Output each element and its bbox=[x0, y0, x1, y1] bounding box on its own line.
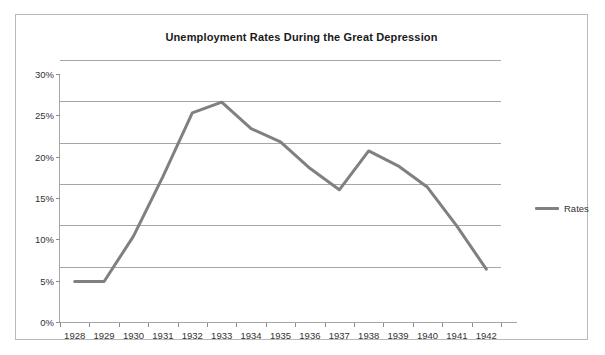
y-tick-label-0: 0% bbox=[40, 317, 54, 328]
x-tick-mark-1941 bbox=[442, 323, 443, 327]
x-tick-label-1937: 1937 bbox=[329, 330, 350, 341]
x-tick-mark-1931 bbox=[148, 323, 149, 327]
x-tick-label-1929: 1929 bbox=[94, 330, 115, 341]
series-line-rates bbox=[60, 60, 501, 308]
x-axis-tick-labels: 1928192919301931193219331934193519361937… bbox=[60, 330, 501, 344]
y-tick-label-10: 10% bbox=[35, 234, 54, 245]
x-tick-mark-1929 bbox=[89, 323, 90, 327]
x-tick-label-1935: 1935 bbox=[270, 330, 291, 341]
y-tick-label-15: 15% bbox=[35, 193, 54, 204]
x-tick-label-1941: 1941 bbox=[446, 330, 467, 341]
x-tick-label-1928: 1928 bbox=[64, 330, 85, 341]
x-tick-mark-end bbox=[501, 323, 502, 327]
x-tick-mark-1939 bbox=[383, 323, 384, 327]
x-tick-label-1934: 1934 bbox=[241, 330, 262, 341]
x-tick-label-1932: 1932 bbox=[182, 330, 203, 341]
x-tick-mark-1937 bbox=[325, 323, 326, 327]
x-tick-mark-1938 bbox=[354, 323, 355, 327]
chart-title: Unemployment Rates During the Great Depr… bbox=[16, 31, 587, 43]
legend-label-rates: Rates bbox=[564, 203, 589, 214]
x-tick-label-1938: 1938 bbox=[358, 330, 379, 341]
x-tick-label-1933: 1933 bbox=[211, 330, 232, 341]
x-tick-label-1940: 1940 bbox=[417, 330, 438, 341]
y-tick-label-5: 5% bbox=[40, 275, 54, 286]
x-tick-label-1939: 1939 bbox=[388, 330, 409, 341]
y-tick-label-25: 25% bbox=[35, 110, 54, 121]
chart-legend: Rates bbox=[535, 203, 589, 214]
x-tick-mark-1935 bbox=[266, 323, 267, 327]
x-tick-mark-1930 bbox=[119, 323, 120, 327]
x-tick-mark-1940 bbox=[413, 323, 414, 327]
x-tick-mark-1932 bbox=[178, 323, 179, 327]
y-axis-tick-labels: 0%5%10%15%20%25%30% bbox=[26, 74, 54, 323]
x-tick-label-1942: 1942 bbox=[476, 330, 497, 341]
plot-area bbox=[60, 60, 501, 308]
y-tick-label-20: 20% bbox=[35, 151, 54, 162]
x-tick-mark-1942 bbox=[472, 323, 473, 327]
x-tick-label-1930: 1930 bbox=[123, 330, 144, 341]
x-axis-tick-marks bbox=[60, 323, 501, 327]
x-tick-mark-1934 bbox=[236, 323, 237, 327]
legend-swatch-rates bbox=[535, 207, 559, 210]
x-tick-mark-1928 bbox=[60, 323, 61, 327]
y-tick-label-30: 30% bbox=[35, 69, 54, 80]
x-tick-mark-1933 bbox=[207, 323, 208, 327]
x-tick-label-1931: 1931 bbox=[152, 330, 173, 341]
x-tick-label-1936: 1936 bbox=[299, 330, 320, 341]
x-tick-mark-1936 bbox=[295, 323, 296, 327]
chart-screenshot: Unemployment Rates During the Great Depr… bbox=[0, 0, 605, 355]
chart-frame: Unemployment Rates During the Great Depr… bbox=[15, 14, 588, 340]
